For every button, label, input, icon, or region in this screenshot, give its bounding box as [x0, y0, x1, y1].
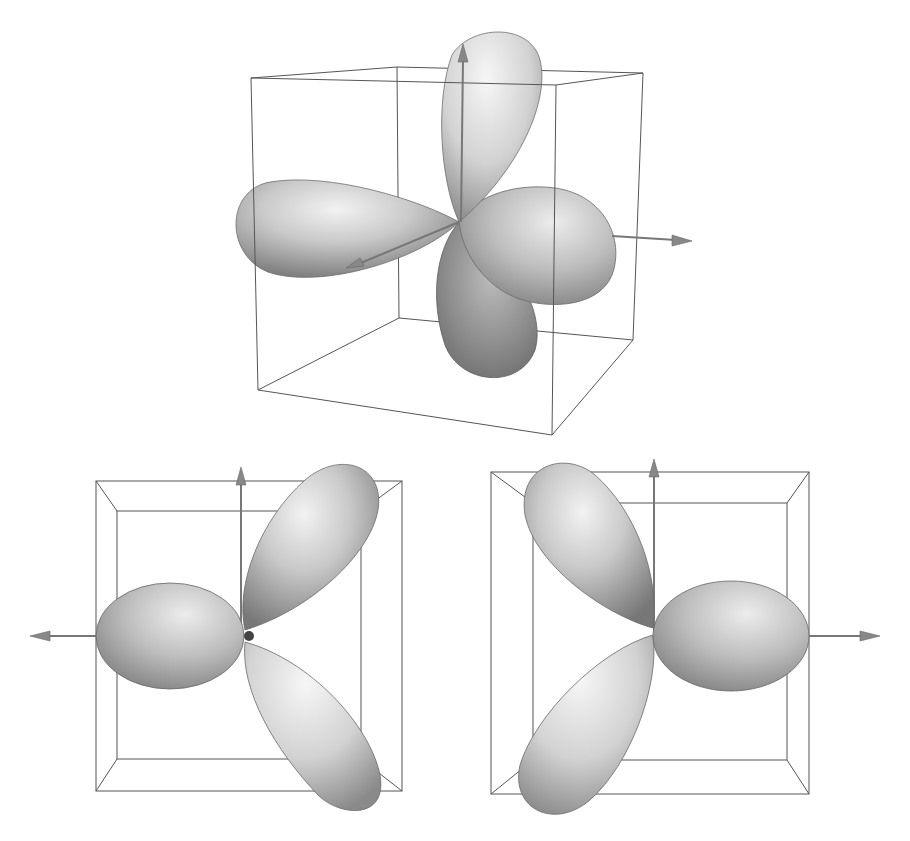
orbital-lobe-left: [96, 583, 244, 689]
x-axis-arrow-left: [30, 631, 96, 641]
bottom-left-orbital-panel: [0, 445, 455, 841]
orbital-lobe-left: [236, 180, 459, 277]
orbital-lobe-upper-left: [524, 463, 654, 628]
orbital-lobe-upper-right: [243, 464, 379, 630]
top-orbital-panel: [0, 0, 910, 445]
x-axis-arrow: [612, 235, 692, 246]
orbital-lobe-lower-right: [245, 642, 381, 811]
orbital-lobe-lower-left: [519, 635, 654, 814]
x-axis-arrow-right: [809, 631, 880, 641]
bottom-right-orbital-panel: [455, 445, 910, 841]
bottom-right-orbital-diagram: [455, 445, 910, 841]
bottom-left-orbital-diagram: [0, 445, 455, 841]
top-orbital-diagram: [0, 0, 910, 445]
orbital-lobe-right: [653, 581, 809, 691]
nucleus-dot: [244, 631, 254, 641]
